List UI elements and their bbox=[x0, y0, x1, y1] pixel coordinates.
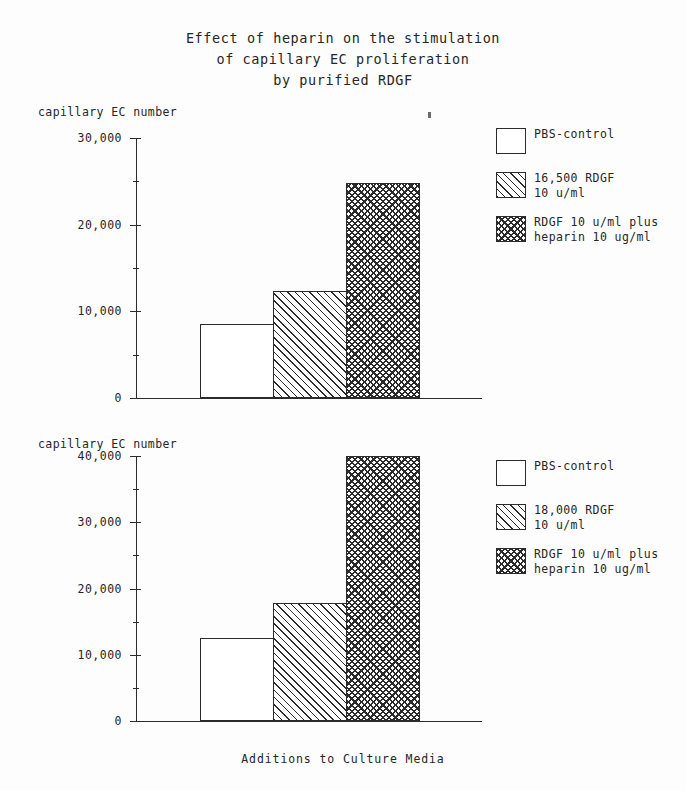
top-bar-2 bbox=[273, 291, 347, 398]
figure-title: Effect of heparin on the stimulation of … bbox=[0, 28, 686, 91]
x-axis-caption: Additions to Culture Media bbox=[0, 752, 686, 766]
bottom-y-tick-major bbox=[130, 721, 141, 722]
top-y-tick-minor bbox=[133, 268, 139, 269]
top-legend-label-line1: 16,500 RDGF bbox=[534, 171, 615, 186]
top-y-tick-label: 0 bbox=[32, 391, 122, 405]
top-legend-swatch-hatch bbox=[496, 172, 526, 198]
bottom-bar-1 bbox=[200, 638, 274, 721]
figure-title-line-3: by purified RDGF bbox=[0, 70, 686, 91]
bottom-y-tick-major bbox=[130, 655, 141, 656]
top-y-tick-major bbox=[130, 138, 141, 139]
bottom-y-tick-major bbox=[130, 456, 141, 457]
bottom-y-tick-minor bbox=[133, 688, 139, 689]
figure-page: Effect of heparin on the stimulation of … bbox=[0, 0, 686, 791]
bottom-legend-swatch-empty bbox=[496, 460, 526, 486]
top-y-tick-label: 10,000 bbox=[32, 304, 122, 318]
bottom-legend-label: 18,000 RDGF10 u/ml bbox=[534, 503, 615, 532]
top-y-tick-minor bbox=[133, 355, 139, 356]
top-legend-item: PBS-control bbox=[496, 127, 686, 157]
top-legend-label-line1: PBS-control bbox=[534, 127, 615, 142]
bottom-x-axis-line bbox=[136, 721, 482, 722]
top-legend-label-line1: RDGF 10 u/ml plus bbox=[534, 215, 659, 230]
bottom-legend-label: RDGF 10 u/ml plusheparin 10 ug/ml bbox=[534, 547, 659, 576]
top-bar-3 bbox=[346, 183, 420, 398]
top-legend-label-line2: 10 u/ml bbox=[534, 186, 615, 201]
figure-title-line-2: of capillary EC proliferation bbox=[0, 49, 686, 70]
bottom-legend-label: PBS-control bbox=[534, 459, 615, 474]
top-y-axis-title: capillary EC number bbox=[38, 105, 177, 119]
top-plot-area: 30,00020,00010,0000 bbox=[136, 138, 444, 398]
chart-panel-bottom: capillary EC number 40,00030,00020,00010… bbox=[0, 437, 686, 737]
top-y-tick-label: 20,000 bbox=[32, 218, 122, 232]
bottom-legend-item: RDGF 10 u/ml plusheparin 10 ug/ml bbox=[496, 547, 686, 577]
bottom-y-tick-major bbox=[130, 522, 141, 523]
top-legend-label: 16,500 RDGF10 u/ml bbox=[534, 171, 615, 200]
bottom-legend-swatch-cross bbox=[496, 548, 526, 574]
bottom-y-tick-label: 20,000 bbox=[32, 582, 122, 596]
bottom-y-tick-minor bbox=[133, 622, 139, 623]
bottom-legend-label-line1: PBS-control bbox=[534, 459, 615, 474]
top-y-tick-minor bbox=[133, 181, 139, 182]
top-legend-item: RDGF 10 u/ml plusheparin 10 ug/ml bbox=[496, 215, 686, 245]
bottom-legend-item: 18,000 RDGF10 u/ml bbox=[496, 503, 686, 533]
top-legend-label: RDGF 10 u/ml plusheparin 10 ug/ml bbox=[534, 215, 659, 244]
top-legend-label-line2: heparin 10 ug/ml bbox=[534, 230, 659, 245]
top-legend-swatch-cross bbox=[496, 216, 526, 242]
bottom-y-tick-minor bbox=[133, 555, 139, 556]
bottom-legend-label-line2: heparin 10 ug/ml bbox=[534, 562, 659, 577]
bottom-legend-label-line2: 10 u/ml bbox=[534, 518, 615, 533]
top-legend: PBS-control16,500 RDGF10 u/mlRDGF 10 u/m… bbox=[496, 127, 686, 259]
bottom-y-tick-label: 30,000 bbox=[32, 515, 122, 529]
bottom-legend: PBS-control18,000 RDGF10 u/mlRDGF 10 u/m… bbox=[496, 459, 686, 591]
bottom-y-tick-minor bbox=[133, 489, 139, 490]
bottom-y-tick-label: 40,000 bbox=[32, 449, 122, 463]
bottom-plot-area: 40,00030,00020,00010,0000 bbox=[136, 456, 444, 721]
top-legend-label: PBS-control bbox=[534, 127, 615, 142]
figure-title-line-1: Effect of heparin on the stimulation bbox=[0, 28, 686, 49]
bottom-bar-3 bbox=[346, 456, 420, 721]
bottom-y-tick-label: 0 bbox=[32, 714, 122, 728]
top-x-axis-line bbox=[136, 398, 482, 399]
top-y-tick-major bbox=[130, 311, 141, 312]
bottom-y-tick-major bbox=[130, 589, 141, 590]
top-y-tick-label: 30,000 bbox=[32, 131, 122, 145]
bottom-y-tick-label: 10,000 bbox=[32, 648, 122, 662]
top-bar-1 bbox=[200, 324, 274, 398]
top-legend-swatch-empty bbox=[496, 128, 526, 154]
top-y-tick-major bbox=[130, 398, 141, 399]
bottom-bar-2 bbox=[273, 603, 347, 721]
bottom-legend-label-line1: 18,000 RDGF bbox=[534, 503, 615, 518]
chart-panel-top: capillary EC number 30,00020,00010,0000 … bbox=[0, 105, 686, 425]
bottom-legend-swatch-hatch bbox=[496, 504, 526, 530]
top-y-tick-major bbox=[130, 225, 141, 226]
bottom-legend-label-line1: RDGF 10 u/ml plus bbox=[534, 547, 659, 562]
top-legend-item: 16,500 RDGF10 u/ml bbox=[496, 171, 686, 201]
bottom-legend-item: PBS-control bbox=[496, 459, 686, 489]
